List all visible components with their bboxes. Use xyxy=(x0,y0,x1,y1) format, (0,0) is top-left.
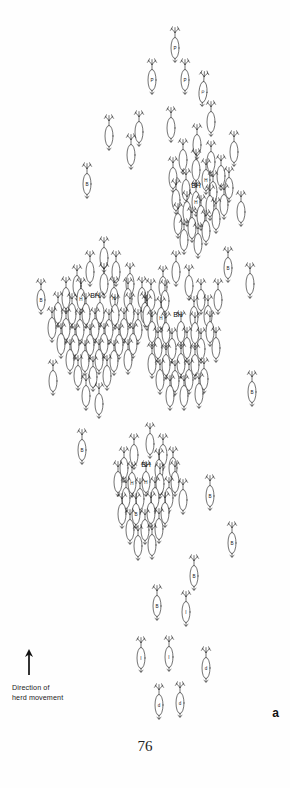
up-arrow-icon xyxy=(22,648,36,676)
caribou-symbol: B xyxy=(247,371,256,406)
caribou-symbol: B xyxy=(205,475,214,510)
caribou-symbol xyxy=(166,107,175,142)
caribou-symbol xyxy=(245,263,254,298)
cluster-label-bh: BH xyxy=(191,182,201,189)
caribou-symbol xyxy=(178,479,187,514)
caribou-symbol xyxy=(104,115,113,150)
panel-label: a xyxy=(272,706,279,720)
caribou-symbol xyxy=(196,279,205,314)
legend-text: Direction of herd movement xyxy=(12,683,108,702)
caribou-symbol xyxy=(48,360,57,395)
animal-label: P xyxy=(183,78,186,83)
caribou-symbol xyxy=(213,279,222,314)
caribou-symbol xyxy=(99,263,108,298)
page-number: 76 xyxy=(0,738,290,755)
caribou-symbol: P xyxy=(147,59,156,94)
caribou-symbol: P xyxy=(180,59,189,94)
caribou-symbol: B xyxy=(77,429,86,464)
animal-label: B xyxy=(226,266,229,271)
animal-label: B xyxy=(230,541,233,546)
animal-symbols-layer: PPPPBHHBBHHHBBHHBBBBBIIIddd xyxy=(36,27,256,719)
caribou-symbol: d xyxy=(154,684,163,719)
caribou-symbol: I xyxy=(181,591,190,626)
animal-label: B xyxy=(134,512,137,517)
caribou-symbol: B xyxy=(152,585,161,620)
cluster-label-bh: BH xyxy=(90,292,100,299)
caribou-symbol xyxy=(178,139,187,174)
animal-label: I xyxy=(185,610,186,615)
caribou-symbol: B xyxy=(189,555,198,590)
caribou-symbol: I xyxy=(136,637,145,672)
cluster-label-bh: BH xyxy=(173,311,183,318)
animal-label: B xyxy=(155,604,158,609)
caribou-symbol: B xyxy=(227,522,236,557)
caribou-symbol xyxy=(192,124,201,159)
figure-panel-a: PPPPBHHBBHHHBBHHBBBBBIIIddd BHBHBHBH Dir… xyxy=(0,0,290,788)
caribou-symbol xyxy=(94,383,103,418)
animal-label: H xyxy=(79,297,82,302)
caribou-symbol: d xyxy=(201,647,210,682)
caribou-symbol: P xyxy=(170,27,179,62)
animal-label: B xyxy=(85,182,88,187)
animal-label: H xyxy=(144,480,147,485)
caribou-symbol xyxy=(126,134,135,169)
animal-label: d xyxy=(158,703,161,708)
caribou-symbol xyxy=(134,111,143,146)
animal-label: B xyxy=(250,390,253,395)
animal-label: P xyxy=(150,78,153,83)
caribou-symbol xyxy=(85,251,94,286)
caribou-symbol: B xyxy=(82,163,91,198)
animal-label: B xyxy=(208,494,211,499)
animal-label: B xyxy=(39,298,42,303)
caribou-symbol xyxy=(129,434,138,469)
caribou-symbol: B xyxy=(36,279,45,314)
animal-label: H xyxy=(204,178,207,183)
animal-label: B xyxy=(80,448,83,453)
animal-label: I xyxy=(168,655,169,660)
caribou-symbol xyxy=(229,131,238,166)
animal-label: H xyxy=(159,316,162,321)
animal-label: B xyxy=(192,574,195,579)
caribou-symbol xyxy=(145,423,154,458)
caribou-symbol xyxy=(171,251,180,286)
animal-label: d xyxy=(179,701,182,706)
animal-label: H xyxy=(130,481,133,486)
caribou-symbol xyxy=(206,101,215,136)
legend-direction-of-herd-movement: Direction of herd movement xyxy=(12,648,108,702)
caribou-symbol xyxy=(184,265,193,300)
caribou-symbol xyxy=(236,191,245,226)
cluster-label-bh: BH xyxy=(141,461,151,468)
caribou-symbol: d xyxy=(175,682,184,717)
animal-label: I xyxy=(140,656,141,661)
animal-label: d xyxy=(205,666,208,671)
animal-label: H xyxy=(194,200,197,205)
caribou-symbol: I xyxy=(164,636,173,671)
animal-label: P xyxy=(173,46,176,51)
caribou-symbol: B xyxy=(223,247,232,282)
caribou-symbol: P xyxy=(197,71,209,107)
animal-label: P xyxy=(201,89,204,94)
